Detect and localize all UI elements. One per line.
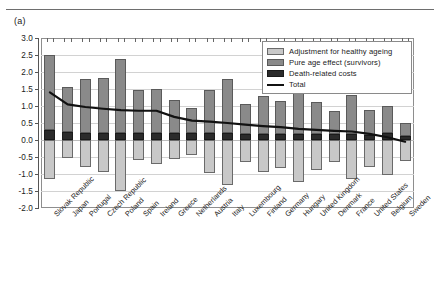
legend-item: Total [267, 79, 407, 89]
y-tick-label: 2.5 [3, 51, 33, 60]
y-tick-label: -0.5 [3, 153, 33, 162]
legend-swatch-death-costs-icon [267, 70, 284, 77]
y-tick-mark [35, 89, 39, 90]
y-tick-label: 2.0 [3, 68, 33, 77]
y-tick-mark [35, 72, 39, 73]
legend-swatch-pure-age-icon [267, 59, 284, 66]
legend-swatch-total-line-icon [267, 81, 284, 88]
y-tick-mark [35, 55, 39, 56]
y-tick-label: -2.0 [3, 204, 33, 213]
y-tick-mark [35, 191, 39, 192]
y-tick-label: 0.0 [3, 136, 33, 145]
y-tick-label: 1.5 [3, 85, 33, 94]
y-tick-label: 1.0 [3, 102, 33, 111]
y-tick-mark [35, 174, 39, 175]
x-axis-category-labels: Slovak RepublicJapanPortugalCzech Republ… [41, 210, 414, 290]
total-line-path [50, 92, 405, 141]
y-tick-mark [35, 38, 39, 39]
y-tick-mark [35, 208, 39, 209]
y-tick-mark [35, 106, 39, 107]
y-tick-mark [35, 140, 39, 141]
y-tick-label: -1.0 [3, 170, 33, 179]
legend-label: Pure age effect (survivors) [289, 58, 381, 67]
legend-item: Adjustment for healthy ageing [267, 46, 407, 56]
chart-figure: 3.02.52.01.51.00.50.0-0.5-1.0-1.5-2.0 Sl… [0, 0, 440, 293]
legend-item: Pure age effect (survivors) [267, 57, 407, 67]
chart-legend: Adjustment for healthy ageing Pure age e… [262, 41, 412, 94]
legend-label: Adjustment for healthy ageing [289, 47, 392, 56]
y-tick-label: 0.5 [3, 119, 33, 128]
legend-item: Death-related costs [267, 68, 407, 78]
y-tick-mark [35, 157, 39, 158]
legend-swatch-adjustment-icon [267, 48, 284, 55]
y-tick-mark [35, 123, 39, 124]
y-tick-label: -1.5 [3, 187, 33, 196]
legend-label: Death-related costs [289, 69, 357, 78]
legend-label: Total [289, 80, 306, 89]
y-tick-label: 3.0 [3, 34, 33, 43]
